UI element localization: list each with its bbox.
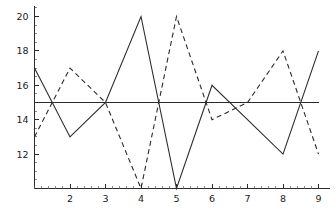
x-tick-label: 6 [209, 193, 215, 204]
plot-area: 1214161820 23456789 [0, 0, 336, 212]
x-tick-label: 7 [244, 193, 250, 204]
y-tick-labels: 1214161820 [16, 11, 28, 160]
series-group [35, 17, 319, 189]
line-chart: 1214161820 23456789 [0, 0, 336, 212]
y-tick-label: 16 [16, 80, 28, 91]
y-tick-label: 20 [16, 11, 28, 22]
x-tick-label: 9 [315, 193, 321, 204]
y-tick-label: 12 [16, 149, 28, 160]
x-tick-label: 5 [173, 193, 179, 204]
x-tick-label: 8 [280, 193, 286, 204]
x-major-ticks [70, 184, 319, 189]
y-tick-label: 18 [16, 45, 28, 56]
y-tick-label: 14 [16, 114, 28, 125]
x-axis-group: 23456789 [35, 184, 330, 204]
x-tick-label: 3 [102, 193, 108, 204]
x-tick-label: 4 [138, 193, 144, 204]
x-tick-label: 2 [67, 193, 73, 204]
y-axis-group: 1214161820 [16, 6, 39, 188]
x-tick-labels: 23456789 [67, 193, 322, 204]
